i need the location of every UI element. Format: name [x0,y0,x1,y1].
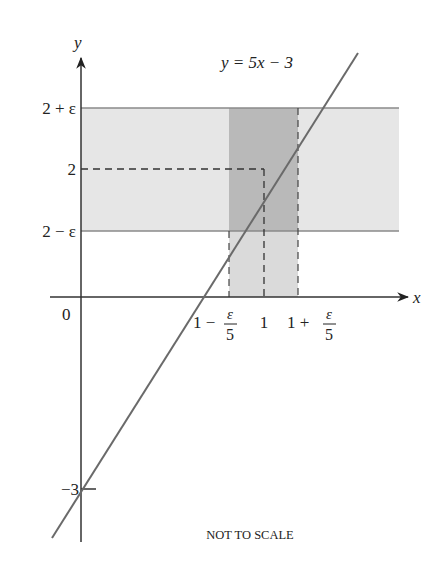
ytick-2minus-eps: 2 − ε [42,222,76,241]
ytick-2plus-eps: 2 + ε [42,99,76,118]
xtick-1plus-label: 1 + [287,313,309,332]
y-axis-label: y [72,33,82,52]
xtick-1minus-num: ε [227,306,233,322]
xtick-1minus-den: 5 [226,326,234,343]
ytick-2: 2 [68,160,77,179]
xtick-1plus-num: ε [326,306,332,322]
xtick-1-label: 1 [260,313,269,332]
xtick-1plus-den: 5 [325,326,333,343]
ytick-minus3: −3 [61,480,79,499]
epsilon-delta-diagram: y x 0 y = 5x − 3 2 + ε 2 2 − ε −3 1 − ε … [0,0,432,572]
xtick-1minus-label: 1 − [193,313,215,332]
x-axis-label: x [412,288,421,307]
not-to-scale-note: NOT TO SCALE [206,528,294,542]
equation-text: y = 5x − 3 [219,53,293,72]
origin-label: 0 [62,305,71,324]
equation-label: y = 5x − 3 [219,53,293,72]
